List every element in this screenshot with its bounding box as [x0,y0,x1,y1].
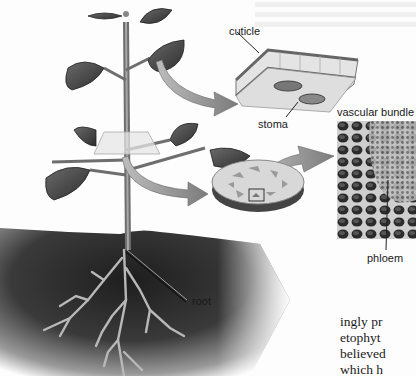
body-text-fragment: ingly pr etophyt believed which h [340,314,386,376]
arrow-stem-to-section [122,156,208,206]
label-vascular-bundle: vascular bundle [337,106,414,118]
body-text-line: believed [340,346,386,362]
stem-cross-section [212,160,304,212]
body-text-line: etophyt [340,330,386,346]
plant-diagram: cuticle stoma vascular bundle phloem roo… [0,0,416,376]
label-phloem: phloem [367,252,403,264]
body-text-line: ingly pr [340,314,386,330]
cut-plane [94,132,160,154]
vascular-bundle-image [337,121,416,250]
cuticle-block [236,32,358,117]
label-root: root [192,295,211,307]
label-cuticle: cuticle [229,25,260,37]
bud [123,11,129,17]
body-text-line: which h [340,362,386,376]
label-stoma: stoma [258,118,288,130]
